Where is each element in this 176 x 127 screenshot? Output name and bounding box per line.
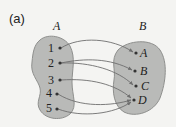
dot-5 <box>55 107 58 110</box>
dot-C <box>134 84 137 87</box>
dot-1 <box>58 46 61 49</box>
element-D: D <box>137 93 147 107</box>
dot-D <box>132 98 135 101</box>
element-3: 3 <box>48 73 54 87</box>
element-C: C <box>141 79 150 93</box>
element-1: 1 <box>48 41 54 55</box>
element-4: 4 <box>46 86 52 100</box>
element-B: B <box>140 64 148 78</box>
element-2: 2 <box>48 56 54 70</box>
dot-A <box>134 51 137 54</box>
dot-2 <box>58 61 61 64</box>
mapping-diagram: (a) A B 1 2 3 4 5 A B C D <box>0 0 176 127</box>
set-b-name: B <box>139 19 147 33</box>
dot-B <box>133 69 136 72</box>
element-A: A <box>139 46 148 60</box>
dot-3 <box>58 78 61 81</box>
panel-label: (a) <box>9 11 25 26</box>
dot-4 <box>55 92 58 95</box>
set-a-name: A <box>52 19 61 33</box>
element-5: 5 <box>46 101 52 115</box>
